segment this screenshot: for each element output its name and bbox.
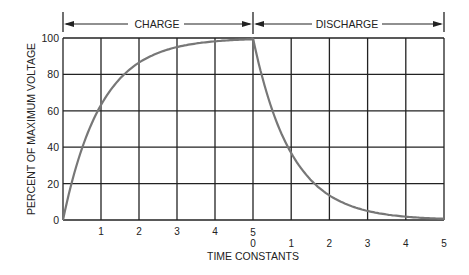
mid-tick-label-top: 5 bbox=[250, 227, 256, 238]
x-tick-label: 4 bbox=[212, 226, 218, 237]
rc-charge-discharge-chart: 020406080100 123412345 CHARGE DISCHARGE … bbox=[0, 0, 469, 275]
x-tick-labels: 123412345 bbox=[98, 226, 447, 249]
grid bbox=[63, 38, 444, 220]
section-header: CHARGE DISCHARGE bbox=[63, 12, 444, 34]
discharge-label: DISCHARGE bbox=[316, 18, 378, 30]
x-tick-label: 3 bbox=[365, 238, 371, 249]
arrowhead-icon bbox=[242, 21, 252, 27]
chart-svg: 020406080100 123412345 CHARGE DISCHARGE … bbox=[0, 0, 469, 275]
discharge-curve bbox=[253, 38, 444, 219]
x-tick-label: 2 bbox=[327, 238, 333, 249]
arrowhead-icon bbox=[254, 21, 264, 27]
y-tick-label: 80 bbox=[47, 68, 59, 80]
x-tick-label: 4 bbox=[403, 238, 409, 249]
y-tick-label: 100 bbox=[41, 32, 59, 44]
mid-tick-label-bottom: 0 bbox=[250, 238, 256, 249]
y-tick-labels: 020406080100 bbox=[41, 32, 59, 226]
x-tick-label: 1 bbox=[98, 226, 104, 237]
y-tick-label: 60 bbox=[47, 105, 59, 117]
x-tick-label: 3 bbox=[174, 226, 180, 237]
x-tick-label: 2 bbox=[136, 226, 142, 237]
charge-label: CHARGE bbox=[135, 18, 180, 30]
arrowhead-icon bbox=[64, 21, 74, 27]
y-tick-label: 40 bbox=[47, 141, 59, 153]
x-tick-label: 5 bbox=[441, 238, 447, 249]
y-tick-label: 20 bbox=[47, 178, 59, 190]
x-axis-label: TIME CONSTANTS bbox=[207, 250, 299, 262]
charge-curve bbox=[63, 39, 253, 220]
y-axis-label: PERCENT OF MAXIMUM VOLTAGE bbox=[25, 43, 37, 215]
y-tick-label: 0 bbox=[53, 214, 59, 226]
arrowhead-icon bbox=[433, 21, 443, 27]
x-tick-label: 1 bbox=[288, 238, 294, 249]
